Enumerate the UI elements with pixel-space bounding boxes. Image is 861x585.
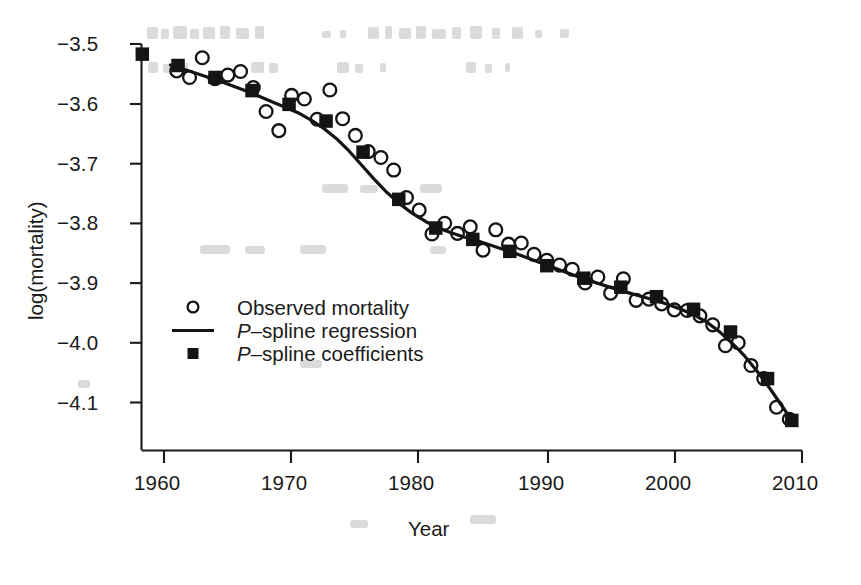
data-point-observed xyxy=(221,69,234,82)
legend-label-italic-prefix: P xyxy=(237,342,251,365)
data-point-coefficient xyxy=(577,271,591,285)
x-tick-label: 1970 xyxy=(261,471,307,495)
data-point-observed xyxy=(336,112,349,125)
x-axis-title: Year xyxy=(408,517,449,541)
data-point-coefficient xyxy=(761,372,775,386)
data-point-observed xyxy=(349,129,362,142)
legend-markers xyxy=(172,302,214,359)
data-point-observed xyxy=(323,84,336,97)
data-point-coefficient xyxy=(392,193,406,207)
x-tick-label: 1990 xyxy=(518,471,564,495)
x-tick-label: 1980 xyxy=(388,471,434,495)
y-tick-label: −3.5 xyxy=(57,32,98,56)
data-point-coefficient xyxy=(319,114,333,128)
data-point-coefficient xyxy=(724,325,738,339)
data-point-observed xyxy=(489,223,502,236)
series-observed-mortality xyxy=(170,51,795,425)
legend-label-italic-prefix: P xyxy=(237,319,251,342)
legend-marker-filled-square xyxy=(188,348,199,359)
data-point-observed xyxy=(234,65,247,78)
y-axis xyxy=(130,44,142,450)
y-tick-label: −3.6 xyxy=(57,92,98,116)
legend-label-text: –spline regression xyxy=(251,319,417,342)
data-point-observed xyxy=(387,164,400,177)
data-point-coefficient xyxy=(503,245,517,259)
legend-label-text: Observed mortality xyxy=(237,296,409,319)
data-point-coefficient xyxy=(687,303,701,317)
data-point-observed xyxy=(272,124,285,137)
data-point-observed xyxy=(375,151,388,164)
data-point-coefficient xyxy=(208,71,222,85)
data-point-coefficient xyxy=(785,414,799,428)
data-point-observed xyxy=(260,105,273,118)
data-point-coefficient xyxy=(650,290,664,304)
y-tick-label: −4.0 xyxy=(57,331,98,355)
data-point-observed xyxy=(298,93,311,106)
x-tick-label: 2010 xyxy=(772,471,818,495)
legend-label-observed-mortality: Observed mortality xyxy=(237,296,409,320)
data-point-observed xyxy=(464,220,477,233)
data-point-observed xyxy=(196,51,209,64)
y-tick-label: −3.7 xyxy=(57,152,98,176)
data-point-coefficient xyxy=(429,221,443,235)
y-tick-label: −3.9 xyxy=(57,271,98,295)
legend-label-text: –spline coefficients xyxy=(251,342,424,365)
x-tick-label: 1960 xyxy=(134,471,180,495)
figure-container: −3.5 −3.6 −3.7 −3.8 −3.9 −4.0 −4.1 1960 … xyxy=(0,0,861,585)
data-point-coefficient xyxy=(540,259,554,273)
legend-label-pspline-coefficients: P–spline coefficients xyxy=(237,342,424,366)
data-point-coefficient xyxy=(282,98,296,112)
data-point-coefficient xyxy=(356,145,370,159)
legend-marker-open-circle xyxy=(188,302,199,313)
x-axis xyxy=(142,451,803,464)
data-point-coefficient xyxy=(245,84,258,98)
x-tick-label: 2000 xyxy=(645,471,691,495)
data-point-coefficient xyxy=(136,47,150,61)
legend-label-pspline-regression: P–spline regression xyxy=(237,319,417,343)
data-point-coefficient xyxy=(614,280,628,294)
data-point-observed xyxy=(515,237,528,250)
data-point-coefficient xyxy=(466,233,480,247)
data-point-coefficient xyxy=(171,59,185,72)
y-tick-label: −3.8 xyxy=(57,211,98,235)
series-pspline-coefficients xyxy=(136,47,799,427)
chart-plot-area xyxy=(0,0,861,585)
y-axis-title: log(mortality) xyxy=(24,202,48,320)
y-tick-label: −4.1 xyxy=(57,391,98,415)
